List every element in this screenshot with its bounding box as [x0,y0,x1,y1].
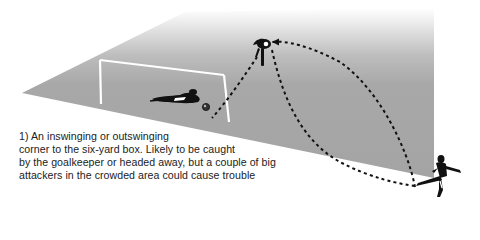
caption-line-1: 1) An inswinging or outswinging [19,130,339,143]
caption-line-2: corner to the six-yard box. Likely to be… [19,143,339,156]
caption: 1) An inswinging or outswinging corner t… [19,130,339,182]
caption-line-4: attackers in the crowded area could caus… [19,169,339,182]
goal-left-post [100,60,101,104]
ball [202,103,209,110]
ball-icon [202,103,209,110]
caption-line-3: by the goalkeeper or headed away, but a … [19,156,339,169]
